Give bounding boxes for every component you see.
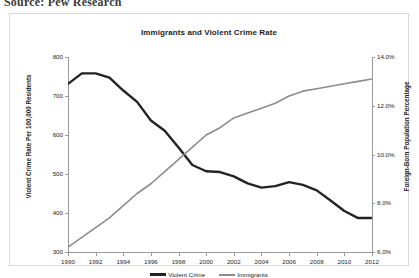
y2-axis-tick-label: 6.0%: [377, 249, 391, 255]
y2-axis-tick-label: 10.0%: [377, 152, 395, 158]
x-axis-tick-label: 1996: [136, 258, 166, 265]
chart-legend: Violent CrimeImmigrants: [10, 271, 408, 278]
y2-axis-tick: [372, 57, 375, 58]
legend-label: Immigrants: [237, 271, 268, 278]
y-axis-title-right: Foreign-Born Population Percentage: [403, 72, 410, 202]
y-axis-tick-label: 700: [46, 93, 63, 99]
y-axis-tick-label: 800: [46, 54, 63, 60]
y-axis-tick-label: 600: [46, 132, 63, 138]
chart-title: Immigrants and Violent Crime Rate: [10, 28, 408, 37]
y-axis-title-left: Violent Crime Rate Per 100,000 Residents: [25, 72, 32, 202]
chart-screenshot: Source: Pew Research Immigrants and Viol…: [0, 0, 419, 278]
series-lines: [68, 57, 372, 252]
series-line-violent-crime: [68, 73, 372, 218]
x-axis-tick: [96, 253, 97, 256]
x-axis-tick: [68, 253, 69, 256]
x-axis-tick-label: 1990: [53, 258, 83, 265]
x-axis-line: [68, 252, 373, 253]
x-axis-tick: [289, 253, 290, 256]
x-axis-tick-label: 2006: [274, 258, 304, 265]
y2-axis-tick: [372, 203, 375, 204]
x-axis-tick: [344, 253, 345, 256]
x-axis-tick-label: 2004: [246, 258, 276, 265]
x-axis-tick: [317, 253, 318, 256]
y2-axis-tick-label: 12.0%: [377, 103, 395, 109]
x-axis-tick-label: 1994: [108, 258, 138, 265]
plot-area: [68, 57, 372, 252]
x-axis-tick-label: 2010: [329, 258, 359, 265]
x-axis-tick: [179, 253, 180, 256]
x-axis-tick: [261, 253, 262, 256]
x-axis-tick-label: 2000: [191, 258, 221, 265]
x-axis-tick-label: 1992: [81, 258, 111, 265]
x-axis-tick: [234, 253, 235, 256]
legend-swatch-icon: [150, 273, 166, 276]
legend-swatch-icon: [219, 274, 235, 276]
chart-container: Immigrants and Violent Crime Rate Violen…: [9, 13, 409, 266]
x-axis-tick-label: 2008: [302, 258, 332, 265]
y2-axis-tick: [372, 155, 375, 156]
y2-axis-tick-label: 14.0%: [377, 54, 395, 60]
legend-label: Violent Crime: [168, 271, 205, 278]
x-axis-tick: [151, 253, 152, 256]
y-axis-tick-label: 300: [46, 249, 63, 255]
y2-axis-tick: [372, 106, 375, 107]
series-line-immigrants: [68, 79, 372, 247]
x-axis-tick: [206, 253, 207, 256]
y-axis-tick-label: 400: [46, 210, 63, 216]
legend-item-violent-crime[interactable]: Violent Crime: [150, 271, 205, 278]
y-axis-tick-label: 500: [46, 171, 63, 177]
x-axis-tick: [372, 253, 373, 256]
legend-item-immigrants[interactable]: Immigrants: [219, 271, 268, 278]
source-caption: Source: Pew Research: [4, 0, 122, 10]
x-axis-tick-label: 1998: [164, 258, 194, 265]
x-axis-tick-label: 2002: [219, 258, 249, 265]
x-axis-tick-label: 2012: [357, 258, 387, 265]
y2-axis-tick-label: 8.0%: [377, 200, 391, 206]
x-axis-tick: [123, 253, 124, 256]
